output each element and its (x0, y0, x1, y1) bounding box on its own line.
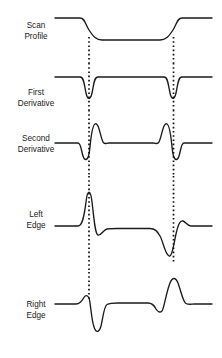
waveform-figure: Scan Profile First Derivative Second Der… (0, 0, 222, 358)
left-edge-trace (55, 192, 212, 256)
first-derivative-label-line1: First (28, 88, 45, 97)
first-derivative-label-line2: Derivative (18, 99, 55, 108)
left-edge-label-line1: Left (29, 210, 43, 219)
first-derivative-trace (55, 77, 212, 98)
figure-container: Scan Profile First Derivative Second Der… (0, 0, 222, 358)
scan-profile-label-line1: Scan (27, 21, 46, 30)
left-edge-label-line2: Edge (26, 221, 46, 230)
scan-profile-trace (55, 18, 212, 40)
second-derivative-trace (55, 124, 212, 160)
second-derivative-label-line2: Derivative (18, 145, 55, 154)
row-first-derivative: First Derivative (18, 77, 212, 108)
scan-profile-label-line2: Profile (24, 32, 48, 41)
row-left-edge: Left Edge (26, 192, 212, 256)
row-scan-profile: Scan Profile (24, 18, 212, 41)
second-derivative-label-line1: Second (22, 134, 50, 143)
right-edge-label-line1: Right (26, 300, 46, 309)
right-edge-trace (55, 279, 212, 332)
right-edge-label-line2: Edge (26, 311, 46, 320)
row-right-edge: Right Edge (26, 279, 212, 332)
row-second-derivative: Second Derivative (18, 124, 212, 160)
